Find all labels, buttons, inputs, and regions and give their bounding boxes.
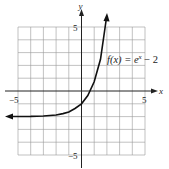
x-axis-arrow-icon bbox=[151, 89, 158, 94]
function-curve bbox=[10, 19, 106, 117]
function-label-prefix: f(x) = e bbox=[107, 54, 139, 66]
function-graph: x y −5 5 5 −5 f(x) = ex − 2 bbox=[0, 0, 169, 169]
y-tick-min: −5 bbox=[68, 151, 78, 161]
y-tick-max: 5 bbox=[73, 23, 78, 33]
x-axis-label: x bbox=[158, 86, 163, 96]
function-label: f(x) = ex − 2 bbox=[107, 53, 158, 66]
curve-left-arrow-icon bbox=[5, 114, 13, 120]
x-tick-min: −5 bbox=[9, 95, 19, 105]
curve-top-arrow-icon bbox=[104, 13, 110, 22]
function-label-suffix: − 2 bbox=[142, 54, 158, 65]
y-axis-label: y bbox=[78, 1, 83, 11]
y-axis bbox=[79, 9, 84, 168]
x-tick-max: 5 bbox=[142, 95, 147, 105]
